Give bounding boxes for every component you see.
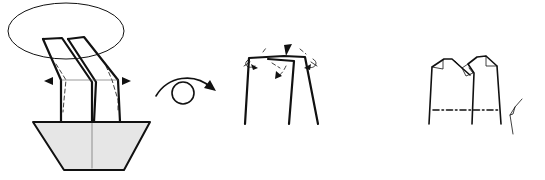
step-3 — [429, 56, 522, 134]
turn-over-arrowhead-icon — [204, 80, 216, 91]
turn-over-symbol — [156, 78, 216, 104]
base-trapezoid — [33, 122, 150, 170]
step-1 — [8, 3, 150, 170]
right-flap — [68, 37, 120, 122]
step-2 — [244, 44, 318, 124]
mountain-fold-symbol-icon — [510, 99, 522, 134]
step2-outline — [245, 56, 318, 124]
ellipse-highlight — [8, 3, 124, 59]
arrowhead-left-icon — [44, 77, 53, 85]
turn-loop — [172, 82, 194, 104]
arrowhead-right-icon — [122, 77, 131, 85]
step2-middle-leg — [268, 59, 294, 124]
step3-left-outline — [429, 59, 470, 124]
turn-arrow-arc — [156, 78, 212, 96]
push-arrowhead-icon — [284, 44, 292, 56]
fold-arrow-left-icon — [244, 60, 258, 70]
fold-arrow-center-icon — [275, 66, 286, 79]
origami-diagram: Origami folding diagram showing three st… — [0, 0, 545, 180]
